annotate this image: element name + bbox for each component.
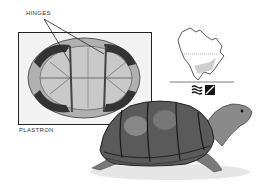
turtle-illustration xyxy=(0,0,268,191)
